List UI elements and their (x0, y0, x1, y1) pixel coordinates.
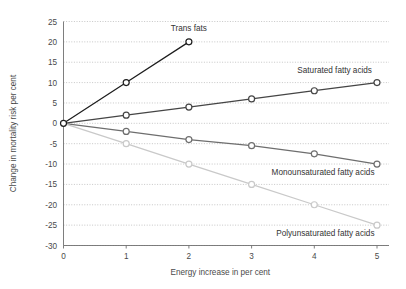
x-tick-labels-group: 012345 (61, 252, 380, 261)
y-tick-label: 25 (48, 18, 58, 27)
y-tick-label: 15 (48, 58, 58, 67)
data-point-marker (123, 141, 129, 147)
data-point-marker (374, 161, 380, 167)
x-axis-title: Energy increase in per cent (170, 268, 270, 277)
y-tick-label: 0 (52, 119, 57, 128)
x-tick-label: 1 (124, 252, 129, 261)
line-chart: 2520151050-5-10-15-20-25-30 012345 Trans… (0, 0, 406, 289)
data-point-marker (311, 88, 317, 94)
data-point-marker (186, 161, 192, 167)
data-point-marker (249, 181, 255, 187)
data-point-marker (123, 128, 129, 134)
series-label-2: Saturated fatty acids (297, 66, 372, 75)
y-tick-label: -30 (45, 242, 57, 251)
data-point-marker (123, 112, 129, 118)
gridlines-group (64, 22, 390, 246)
y-tick-labels-group: 2520151050-5-10-15-20-25-30 (45, 18, 57, 251)
data-point-marker (186, 39, 192, 45)
y-tick-label: -15 (45, 180, 57, 189)
series-labels-group: Trans fatsSaturated fatty acidsMonounsat… (171, 24, 375, 237)
y-tick-label: -5 (50, 140, 58, 149)
series-label-4: Polyunsaturated fatty acids (276, 229, 374, 238)
x-tick-label: 2 (187, 252, 192, 261)
chart-container: 2520151050-5-10-15-20-25-30 012345 Trans… (0, 0, 406, 289)
y-tick-label: -20 (45, 201, 57, 210)
axes-group (64, 22, 390, 249)
y-tick-label: 5 (52, 99, 57, 108)
x-tick-label: 0 (61, 252, 66, 261)
data-point-marker (186, 137, 192, 143)
y-tick-label: 20 (48, 38, 58, 47)
y-axis-title: Change in mortality risk per cent (9, 74, 18, 192)
data-point-marker (186, 104, 192, 110)
data-point-marker (249, 143, 255, 149)
data-point-marker (123, 80, 129, 86)
data-point-marker (311, 202, 317, 208)
y-tick-label: -10 (45, 160, 57, 169)
y-tick-label: -25 (45, 221, 57, 230)
series-label-3: Monounsaturated fatty acids (272, 168, 375, 177)
data-point-marker (374, 80, 380, 86)
origin-marker (61, 120, 67, 126)
x-tick-label: 5 (375, 252, 380, 261)
x-tick-label: 4 (312, 252, 317, 261)
series-label-1: Trans fats (171, 24, 207, 33)
data-point-marker (249, 96, 255, 102)
x-tick-label: 3 (249, 252, 254, 261)
y-tick-label: 10 (48, 79, 58, 88)
data-point-marker (374, 222, 380, 228)
data-point-marker (311, 151, 317, 157)
